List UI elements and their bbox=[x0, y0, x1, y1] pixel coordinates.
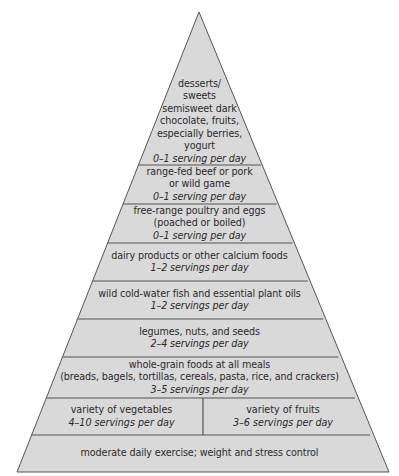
dairy-servings: 1–2 servings per day bbox=[150, 262, 248, 274]
sweets-line-4: chocolate, fruits, bbox=[160, 115, 239, 127]
layer-vegetables: variety of vegetables 4–10 servings per … bbox=[40, 398, 203, 435]
layer-legumes: legumes, nuts, and seeds 2–4 servings pe… bbox=[0, 319, 399, 357]
vegetables-servings: 4–10 servings per day bbox=[68, 417, 174, 429]
sweets-line-2: sweets bbox=[183, 90, 216, 102]
layer-fish: wild cold-water fish and essential plant… bbox=[0, 281, 399, 319]
sweets-line-3: semisweet dark bbox=[162, 103, 236, 115]
layer-poultry: free-range poultry and eggs (poached or … bbox=[0, 204, 399, 243]
fish-line-1: wild cold-water fish and essential plant… bbox=[98, 288, 300, 300]
vegetables-label: variety of vegetables bbox=[71, 404, 173, 416]
fruits-label: variety of fruits bbox=[246, 404, 320, 416]
meat-line-2: or wild game bbox=[169, 178, 230, 190]
sweets-line-5: especially berries, bbox=[157, 128, 242, 140]
legumes-line-1: legumes, nuts, and seeds bbox=[139, 326, 260, 338]
layer-fruits: variety of fruits 3–6 servings per day bbox=[203, 398, 363, 435]
grains-line-1: whole-grain foods at all meals bbox=[129, 359, 271, 371]
layer-meat: range-fed beef or pork or wild game 0–1 … bbox=[0, 165, 399, 204]
layer-base-exercise: moderate daily exercise; weight and stre… bbox=[0, 435, 399, 472]
layer-sweets: desserts/ sweets semisweet dark chocolat… bbox=[0, 78, 399, 165]
poultry-line-1: free-range poultry and eggs bbox=[134, 205, 266, 217]
sweets-servings: 0–1 serving per day bbox=[153, 153, 246, 165]
fruits-servings: 3–6 servings per day bbox=[233, 417, 333, 429]
meat-line-1: range-fed beef or pork bbox=[146, 166, 252, 178]
poultry-servings: 0–1 serving per day bbox=[153, 230, 246, 242]
grains-servings: 3–5 servings per day bbox=[150, 384, 248, 396]
legumes-servings: 2–4 servings per day bbox=[150, 338, 248, 350]
layer-grains: whole-grain foods at all meals (breads, … bbox=[0, 357, 399, 398]
grains-line-2: (breads, bagels, tortillas, cereals, pas… bbox=[60, 371, 339, 383]
base-line-1: moderate daily exercise; weight and stre… bbox=[81, 447, 319, 459]
layer-dairy: dairy products or other calcium foods 1–… bbox=[0, 243, 399, 281]
meat-servings: 0–1 serving per day bbox=[153, 191, 246, 203]
poultry-line-2: (poached or boiled) bbox=[154, 217, 246, 229]
sweets-line-6: yogurt bbox=[184, 140, 215, 152]
sweets-line-1: desserts/ bbox=[178, 78, 221, 90]
fish-servings: 1–2 servings per day bbox=[150, 300, 248, 312]
dairy-line-1: dairy products or other calcium foods bbox=[111, 250, 287, 262]
